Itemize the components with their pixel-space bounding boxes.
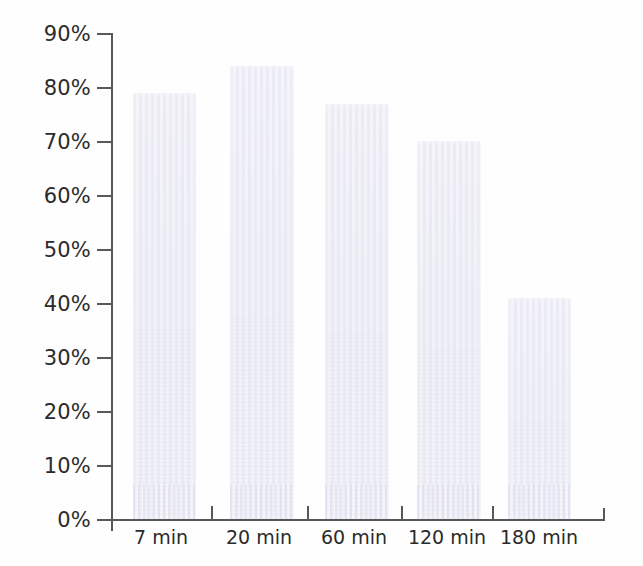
bar-20-min (230, 66, 294, 519)
y-tick-20 (97, 411, 112, 413)
x-tick-2 (307, 506, 309, 520)
x-tick-0 (111, 506, 113, 520)
y-axis-label-80: 80% (11, 78, 91, 99)
y-tick-80 (97, 87, 112, 89)
y-axis-label-60: 60% (11, 186, 91, 207)
y-axis-label-0: 0% (11, 510, 91, 531)
y-tick-30 (97, 357, 112, 359)
bar-180-min (508, 298, 571, 519)
x-tick-3 (401, 506, 403, 520)
y-axis-label-40: 40% (11, 294, 91, 315)
bar-7-min (133, 93, 196, 519)
x-axis-label-180-min: 180 min (484, 527, 594, 548)
y-tick-0 (97, 519, 112, 521)
y-tick-60 (97, 195, 112, 197)
y-axis-label-20: 20% (11, 402, 91, 423)
x-axis-label-20-min: 20 min (204, 527, 314, 548)
y-axis-label-10: 10% (11, 456, 91, 477)
x-tick-1 (211, 506, 213, 520)
y-tick-10 (97, 465, 112, 467)
y-axis-line (111, 33, 113, 522)
y-axis-label-70: 70% (11, 132, 91, 153)
y-tick-40 (97, 303, 112, 305)
x-axis-label-7-min: 7 min (106, 527, 216, 548)
y-tick-70 (97, 141, 112, 143)
bar-120-min (417, 141, 481, 519)
x-tick-4 (492, 506, 494, 520)
x-axis-end-cap (603, 508, 605, 521)
bar-chart-figure: 90% 80% 70% 60% 50% 40% 30% 20% 10% 0% 7… (0, 0, 643, 566)
x-axis-line (111, 519, 605, 521)
y-tick-50 (97, 249, 112, 251)
bar-60-min (325, 104, 389, 519)
y-axis-label-30: 30% (11, 348, 91, 369)
y-axis-label-90: 90% (11, 24, 91, 45)
y-axis-label-50: 50% (11, 240, 91, 261)
y-tick-90 (97, 33, 112, 35)
